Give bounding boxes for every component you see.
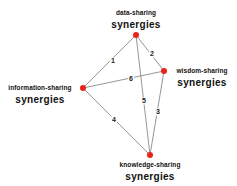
edge-label-5: 5 [142,97,146,104]
label-data-sharing-line2: synergies [106,20,166,30]
label-knowledge-sharing: knowledge-sharing synergies [112,162,188,182]
node-knowledge-sharing [147,152,153,158]
edge-label-6: 6 [129,75,133,82]
label-wisdom-sharing-line1: wisdom-sharing [170,68,234,75]
label-wisdom-sharing: wisdom-sharing synergies [170,68,234,88]
label-knowledge-sharing-line1: knowledge-sharing [112,162,188,169]
edge-6-information-wisdom [83,71,164,88]
node-wisdom-sharing [161,68,167,74]
label-wisdom-sharing-line2: synergies [170,78,234,88]
label-information-sharing-line1: information-sharing [2,85,78,92]
label-knowledge-sharing-line2: synergies [112,172,188,182]
node-data-sharing [133,32,139,38]
edge-label-2: 2 [150,50,154,57]
edge-label-4: 4 [112,116,116,123]
label-data-sharing: data-sharing synergies [106,10,166,30]
label-data-sharing-line1: data-sharing [106,10,166,17]
label-information-sharing-line2: synergies [2,95,78,105]
edge-5-data-knowledge [136,35,150,155]
edge-label-1: 1 [111,57,115,64]
edge-labels: 1 2 3 4 5 6 [110,50,161,123]
edge-label-3: 3 [156,108,160,115]
label-information-sharing: information-sharing synergies [2,85,78,105]
node-information-sharing [80,85,86,91]
